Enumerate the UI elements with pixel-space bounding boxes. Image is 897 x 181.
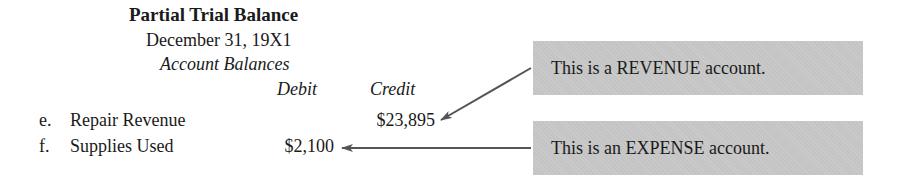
callout-arrows (0, 0, 897, 181)
revenue-arrow (441, 68, 531, 120)
